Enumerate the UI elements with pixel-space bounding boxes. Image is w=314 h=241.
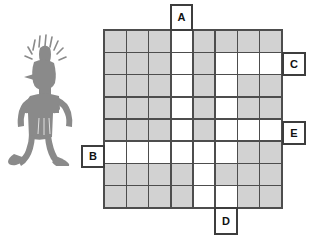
grid-cell-r6-c7[interactable] xyxy=(238,142,259,163)
grid-cell-r4-c5[interactable] xyxy=(194,98,215,119)
grid-cell-r8-c7[interactable] xyxy=(238,186,259,207)
grid-cell-r2-c5[interactable] xyxy=(194,53,215,74)
grid-cell-r2-c3[interactable] xyxy=(149,53,170,74)
grid-cell-r2-c7[interactable] xyxy=(238,53,259,74)
grid-cell-r7-c8[interactable] xyxy=(260,164,281,185)
grid-cell-r4-c8[interactable] xyxy=(260,98,281,119)
grid-cell-r8-c6[interactable] xyxy=(216,186,237,207)
grid-cell-r1-c2[interactable] xyxy=(127,31,148,52)
clue-label-d-text: D xyxy=(222,216,230,227)
grid-cell-r7-c4[interactable] xyxy=(172,164,193,185)
diagram-canvas: A B C E D xyxy=(0,0,314,241)
grid-cell-r6-c1[interactable] xyxy=(105,142,126,163)
grid-cell-r8-c5[interactable] xyxy=(194,186,215,207)
clue-label-b[interactable]: B xyxy=(81,145,105,168)
grid-cell-r3-c1[interactable] xyxy=(105,75,126,96)
grid-cell-r6-c2[interactable] xyxy=(127,142,148,163)
grid-cell-r7-c2[interactable] xyxy=(127,164,148,185)
grid-cell-r5-c5[interactable] xyxy=(194,120,215,141)
grid-cell-r2-c8[interactable] xyxy=(260,53,281,74)
grid-cell-r4-c6[interactable] xyxy=(216,98,237,119)
grid-cell-r1-c6[interactable] xyxy=(216,31,237,52)
grid-cell-r4-c1[interactable] xyxy=(105,98,126,119)
grid-cell-r8-c4[interactable] xyxy=(172,186,193,207)
grid-cell-r3-c4[interactable] xyxy=(172,75,193,96)
grid-cell-r4-c2[interactable] xyxy=(127,98,148,119)
grid-cell-r8-c2[interactable] xyxy=(127,186,148,207)
grid-cell-r6-c8[interactable] xyxy=(260,142,281,163)
grid-cell-r4-c7[interactable] xyxy=(238,98,259,119)
grid-cell-r4-c3[interactable] xyxy=(149,98,170,119)
grid-cell-r3-c3[interactable] xyxy=(149,75,170,96)
clue-label-a-text: A xyxy=(177,12,185,23)
grid-cell-r7-c3[interactable] xyxy=(149,164,170,185)
grid-cell-r7-c6[interactable] xyxy=(216,164,237,185)
grid-cell-r5-c2[interactable] xyxy=(127,120,148,141)
grid-cell-r6-c5[interactable] xyxy=(194,142,215,163)
grid-cell-r1-c5[interactable] xyxy=(194,31,215,52)
grid-cell-r3-c7[interactable] xyxy=(238,75,259,96)
grid-cell-r8-c1[interactable] xyxy=(105,186,126,207)
grid-cell-r5-c3[interactable] xyxy=(149,120,170,141)
grid-cell-r7-c5[interactable] xyxy=(194,164,215,185)
grid-cell-r1-c4[interactable] xyxy=(172,31,193,52)
grid-cell-r7-c7[interactable] xyxy=(238,164,259,185)
grid-cell-r3-c6[interactable] xyxy=(216,75,237,96)
grid-cell-r2-c1[interactable] xyxy=(105,53,126,74)
petroglyph-figure-icon xyxy=(6,34,78,166)
grid-cell-r6-c6[interactable] xyxy=(216,142,237,163)
grid-cell-r3-c5[interactable] xyxy=(194,75,215,96)
clue-label-e-text: E xyxy=(290,128,298,139)
grid-cell-r3-c2[interactable] xyxy=(127,75,148,96)
grid-cell-r5-c8[interactable] xyxy=(260,120,281,141)
grid-cell-r1-c1[interactable] xyxy=(105,31,126,52)
grid-cell-r6-c4[interactable] xyxy=(172,142,193,163)
grid-cell-r2-c2[interactable] xyxy=(127,53,148,74)
grid-cell-r2-c4[interactable] xyxy=(172,53,193,74)
clue-label-a[interactable]: A xyxy=(170,4,193,31)
grid-cell-r4-c4[interactable] xyxy=(172,98,193,119)
grid-cell-r8-c8[interactable] xyxy=(260,186,281,207)
grid-cell-r5-c6[interactable] xyxy=(216,120,237,141)
clue-label-b-text: B xyxy=(89,151,97,162)
grid-cell-r5-c1[interactable] xyxy=(105,120,126,141)
grid-cell-r6-c3[interactable] xyxy=(149,142,170,163)
grid-cell-r3-c8[interactable] xyxy=(260,75,281,96)
grid-cell-r7-c1[interactable] xyxy=(105,164,126,185)
grid-cell-r5-c7[interactable] xyxy=(238,120,259,141)
clue-label-c[interactable]: C xyxy=(282,52,306,76)
grid-cell-r5-c4[interactable] xyxy=(172,120,193,141)
clue-label-c-text: C xyxy=(290,59,298,70)
grid-cell-r1-c8[interactable] xyxy=(260,31,281,52)
puzzle-grid xyxy=(103,29,283,209)
grid-cell-r2-c6[interactable] xyxy=(216,53,237,74)
grid-cell-r8-c3[interactable] xyxy=(149,186,170,207)
petroglyph-figure-illustration xyxy=(6,34,78,166)
puzzle-grid-container xyxy=(103,29,283,209)
clue-label-e[interactable]: E xyxy=(282,121,306,145)
grid-cell-r1-c7[interactable] xyxy=(238,31,259,52)
clue-label-d[interactable]: D xyxy=(214,207,238,235)
grid-cell-r1-c3[interactable] xyxy=(149,31,170,52)
